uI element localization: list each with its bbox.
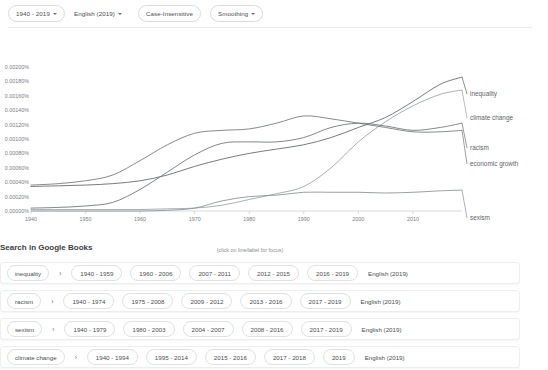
- y-axis-tick-label: 0.00020%: [5, 194, 29, 200]
- year-range-selector[interactable]: 1940 - 2019: [8, 5, 65, 22]
- series-leader-lines: [462, 77, 467, 218]
- books-corpus-label: English (2019): [359, 298, 401, 305]
- x-axis-tick-label: 1990: [298, 216, 310, 222]
- books-term-chip[interactable]: racism: [7, 293, 41, 309]
- y-axis-tick-label: 0.00060%: [5, 165, 29, 171]
- y-axis-tick-label: 0.00180%: [5, 78, 29, 84]
- series-line-sexism[interactable]: [31, 190, 462, 211]
- toolbar-divider: [8, 27, 532, 28]
- books-date-range-chip[interactable]: 2015 - 2016: [205, 349, 256, 365]
- x-axis-tick-label: 1950: [80, 216, 92, 222]
- books-date-range-chip[interactable]: 2016 - 2019: [307, 265, 358, 281]
- smoothing-label: Smoothing: [218, 10, 248, 17]
- leader-line-inequality: [462, 77, 467, 94]
- x-axis-tick-label: 1980: [243, 216, 255, 222]
- chevron-down-icon: [251, 13, 255, 15]
- series-label-economic-growth[interactable]: economic growth: [470, 160, 519, 168]
- series-line-climate-change[interactable]: [31, 90, 462, 210]
- books-rows-container: inequality›1940 - 19591960 - 20062007 - …: [0, 262, 548, 368]
- chevron-right-icon[interactable]: ›: [57, 270, 63, 277]
- books-date-range-chip[interactable]: 2004 - 2007: [183, 321, 234, 337]
- x-axis-tick-label: 2010: [407, 216, 419, 222]
- y-axis-ticks: 0.00000%0.00020%0.00040%0.00060%0.00080%…: [5, 64, 29, 214]
- books-term-chip[interactable]: inequality: [7, 265, 49, 281]
- chart-canvas[interactable]: 0.00000%0.00020%0.00040%0.00060%0.00080%…: [0, 30, 548, 235]
- series-line-racism[interactable]: [31, 123, 462, 208]
- case-sensitivity-toggle[interactable]: Case-Insensitive: [138, 5, 201, 22]
- books-date-range-chip[interactable]: 2019: [323, 349, 355, 365]
- y-axis-tick-label: 0.00040%: [5, 179, 29, 185]
- books-date-range-chip[interactable]: 2009 - 2012: [181, 293, 232, 309]
- books-result-row: inequality›1940 - 19591960 - 20062007 - …: [0, 262, 520, 284]
- year-range-label: 1940 - 2019: [16, 10, 50, 17]
- leader-line-sexism: [462, 190, 467, 218]
- books-date-range-chip[interactable]: 1940 - 1959: [71, 265, 122, 281]
- books-date-range-chip[interactable]: 1940 - 1994: [87, 349, 138, 365]
- corpus-selector[interactable]: English (2019): [74, 6, 129, 21]
- series-line-inequality[interactable]: [31, 77, 462, 186]
- books-corpus-label: English (2019): [363, 354, 405, 361]
- books-term-chip[interactable]: climate change: [7, 349, 65, 365]
- corpus-label: English (2019): [74, 10, 115, 17]
- series-labels[interactable]: inequalityclimate changeracismeconomic g…: [470, 90, 519, 221]
- y-axis-tick-label: 0.00080%: [5, 150, 29, 156]
- chart-toolbar: 1940 - 2019 English (2019) Case-Insensit…: [0, 0, 548, 26]
- books-date-range-chip[interactable]: 2017 - 2019: [301, 321, 352, 337]
- y-axis-tick-label: 0.00140%: [5, 107, 29, 113]
- google-books-section: Search in Google Books inequality›1940 -…: [0, 243, 548, 370]
- chevron-right-icon[interactable]: ›: [49, 298, 55, 305]
- chevron-right-icon[interactable]: ›: [50, 326, 56, 333]
- books-result-row: racism›1940 - 19741975 - 20082009 - 2012…: [0, 290, 520, 312]
- chevron-down-icon: [53, 13, 57, 15]
- x-axis-tick-label: 1970: [189, 216, 201, 222]
- books-date-range-chip[interactable]: 2017 - 2019: [300, 293, 351, 309]
- books-date-range-chip[interactable]: 1940 - 1974: [63, 293, 114, 309]
- series-label-inequality[interactable]: inequality: [470, 90, 498, 98]
- leader-line-climate-change: [462, 90, 467, 118]
- series-label-climate-change[interactable]: climate change: [470, 114, 513, 122]
- books-term-chip[interactable]: sexism: [7, 321, 42, 337]
- books-date-range-chip[interactable]: 2012 - 2015: [248, 265, 299, 281]
- chevron-right-icon[interactable]: ›: [73, 354, 79, 361]
- books-date-range-chip[interactable]: 2013 - 2016: [240, 293, 291, 309]
- books-date-range-chip[interactable]: 1940 - 1979: [64, 321, 115, 337]
- smoothing-selector[interactable]: Smoothing: [210, 5, 263, 22]
- books-date-range-chip[interactable]: 1975 - 2008: [122, 293, 173, 309]
- x-axis-ticks: 19401950196019701980199020002010: [25, 211, 419, 222]
- books-date-range-chip[interactable]: 1980 - 2003: [123, 321, 174, 337]
- books-date-range-chip[interactable]: 1960 - 2006: [130, 265, 181, 281]
- ngram-chart[interactable]: 0.00000%0.00020%0.00040%0.00060%0.00080%…: [0, 30, 548, 235]
- x-axis-tick-label: 1960: [134, 216, 146, 222]
- books-corpus-label: English (2019): [360, 326, 402, 333]
- books-date-range-chip[interactable]: 2008 - 2016: [242, 321, 293, 337]
- books-corpus-label: English (2019): [366, 270, 408, 277]
- y-axis-tick-label: 0.00200%: [5, 64, 29, 70]
- chevron-down-icon: [118, 13, 122, 15]
- series-label-sexism[interactable]: sexism: [470, 214, 490, 221]
- x-axis-tick-label: 1940: [25, 216, 37, 222]
- x-axis-tick-label: 2000: [352, 216, 364, 222]
- y-axis-tick-label: 0.00120%: [5, 122, 29, 128]
- books-result-row: sexism›1940 - 19791980 - 20032004 - 2007…: [0, 318, 520, 340]
- y-axis-tick-label: 0.00000%: [5, 208, 29, 214]
- series-label-racism[interactable]: racism: [470, 144, 489, 151]
- books-date-range-chip[interactable]: 1995 - 2014: [146, 349, 197, 365]
- series-curves[interactable]: [31, 77, 462, 211]
- y-axis-tick-label: 0.00100%: [5, 136, 29, 142]
- case-sensitivity-label: Case-Insensitive: [146, 10, 193, 17]
- books-result-row: climate change›1940 - 19941995 - 2014201…: [0, 346, 520, 368]
- books-date-range-chip[interactable]: 2007 - 2011: [189, 265, 240, 281]
- y-axis-tick-label: 0.00160%: [5, 93, 29, 99]
- books-date-range-chip[interactable]: 2017 - 2018: [264, 349, 315, 365]
- books-section-heading: Search in Google Books: [0, 243, 548, 252]
- series-line-economic-growth[interactable]: [31, 116, 462, 185]
